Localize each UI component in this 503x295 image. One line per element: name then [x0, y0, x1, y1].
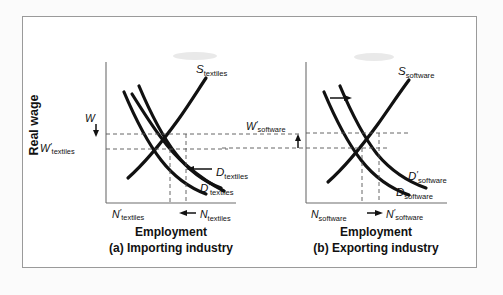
panel-b-wage-new-label: W′software: [246, 119, 286, 134]
scan-smudge: [354, 53, 394, 61]
panel-b-employment-initial-label: Nsoftware: [311, 208, 347, 223]
panel-b-employment-arrow-head: [375, 210, 383, 216]
y-axis-title: Real wage: [27, 94, 41, 155]
panel-a-supply-label: Stextiles: [196, 63, 228, 78]
panel-a-employment-arrow-head: [179, 210, 187, 216]
panel-b-wage-arrow-head: [295, 134, 301, 141]
panel-a-demand-initial: [139, 86, 221, 188]
panel-b-employment-new-label: N′software: [386, 207, 423, 222]
panel-a-employment-initial-label: Ntextiles: [200, 208, 231, 223]
panel-b-shift-arrow-head: [344, 95, 352, 101]
panel-a-employment-new-label: N′textiles: [112, 207, 145, 222]
panel-a-wage-arrow-head: [93, 130, 99, 137]
panel-b-demand-initial: [324, 92, 409, 195]
panel-b: Ssoftware D′software Dsoftware W′softwar…: [222, 62, 447, 255]
scan-smudge: [173, 52, 217, 60]
panel-a-wage-initial-label: W: [85, 112, 96, 124]
panel-a-demand-initial-label: Dtextiles: [216, 166, 248, 181]
panel-b-caption: (b) Exporting industry: [313, 241, 439, 255]
panel-a-x-axis-title: Employment: [135, 225, 207, 239]
panel-b-x-axis-title: Employment: [340, 225, 412, 239]
panel-a-wage-new-label: W′textiles: [40, 141, 75, 156]
figure-canvas: Stextiles Dtextiles D′textiles W W′texti…: [0, 0, 503, 295]
panel-a-caption: (a) Importing industry: [109, 241, 233, 255]
panel-a: Stextiles Dtextiles D′textiles W W′texti…: [40, 62, 300, 255]
figure-root: Stextiles Dtextiles D′textiles W W′texti…: [0, 0, 503, 295]
panel-b-supply-label: Ssoftware: [398, 65, 434, 80]
